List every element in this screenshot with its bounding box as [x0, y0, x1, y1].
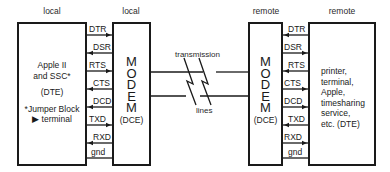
signal-wires	[0, 0, 390, 172]
